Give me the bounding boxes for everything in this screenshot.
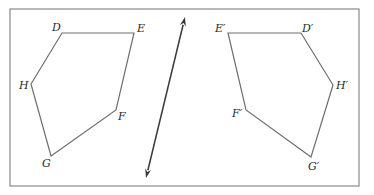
line-of-reflection [148, 25, 183, 170]
image-vertex-label: E′ [214, 22, 226, 35]
image-vertex-label: H′ [335, 79, 349, 92]
diagram-frame [10, 9, 359, 186]
reflection-line [145, 17, 186, 178]
original-vertex-label: G [42, 157, 51, 170]
original-vertex-label: D [51, 21, 61, 34]
image-vertex-labels: D′E′F′G′H′ [214, 22, 349, 173]
original-vertex-label: H [18, 79, 29, 92]
original-polygon-DEFGH [31, 33, 134, 156]
image-vertex-label: G′ [308, 160, 320, 173]
image-vertex-label: F′ [231, 107, 243, 120]
original-vertex-labels: DEFGH [18, 21, 145, 170]
reflection-diagram: DEFGH D′E′F′G′H′ [0, 0, 374, 195]
image-polygon-DEFGH-prime [228, 33, 333, 157]
original-vertex-label: E [136, 22, 145, 35]
image-vertex-label: D′ [301, 22, 314, 35]
original-vertex-label: F [117, 110, 126, 123]
